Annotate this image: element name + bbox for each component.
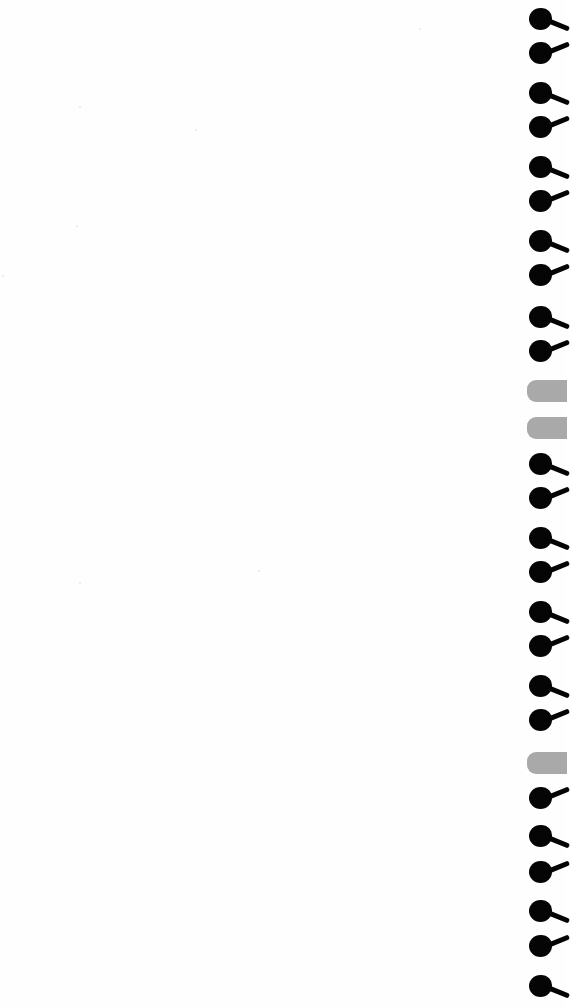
binding-ring [529,900,574,924]
paper-speck [79,106,81,108]
paper-speck [76,225,78,227]
binding-ring [529,709,574,733]
binding-ring [529,675,574,699]
binding-ring [529,82,574,106]
binding-tab [527,380,567,402]
binding-ring [529,306,574,330]
binding-ring [529,601,574,625]
binding-ring [529,861,574,885]
binding-ring [529,156,574,180]
binding-ring [529,787,574,811]
binding-ring [529,635,574,659]
paper-speck [79,582,81,584]
binding-tab [527,752,567,774]
binding-ring [529,561,574,585]
binding-tab [527,417,567,439]
spiral-binding [520,0,566,1008]
binding-ring [529,527,574,551]
binding-ring [529,8,574,32]
binding-ring [529,453,574,477]
paper-speck [2,275,4,277]
binding-ring [529,230,574,254]
binding-ring [529,190,574,214]
binding-ring [529,935,574,959]
paper-speck [419,28,421,30]
paper-speck [195,129,197,131]
paper-speck [258,570,260,572]
binding-ring [529,340,574,364]
binding-ring [529,825,574,849]
binding-ring [529,487,574,511]
binding-ring [529,116,574,140]
binding-ring [529,975,574,999]
binding-ring [529,42,574,66]
binding-ring [529,264,574,288]
